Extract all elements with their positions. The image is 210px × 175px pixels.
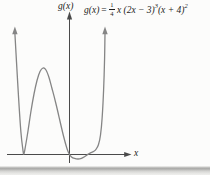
y-axis-label: g(x) [58, 1, 73, 11]
curve-right-arrowhead [102, 27, 107, 35]
curve-left-arrowhead [12, 27, 17, 35]
fraction-denominator: 4 [109, 9, 115, 18]
equation-term-a: x (2x − 3) [117, 5, 155, 15]
y-axis-arrowhead [67, 12, 72, 20]
graph-canvas [0, 0, 210, 175]
equation-fraction: 1 4 [109, 2, 115, 18]
x-axis-label: x [134, 148, 138, 158]
function-graph-figure: g(x) g(x) = 1 4 x (2x − 3) 3 (x + 4) 2 x [0, 0, 210, 175]
curve-path [15, 34, 105, 160]
equals-sign: = [101, 5, 106, 15]
page-edge-divider [0, 166, 210, 175]
equation-lhs: g(x) [84, 5, 99, 15]
equation-exponent-a: 3 [155, 3, 158, 10]
x-axis-arrowhead [124, 152, 131, 157]
equation-exponent-b: 2 [184, 3, 187, 10]
fraction-numerator: 1 [109, 2, 115, 10]
function-equation: g(x) = 1 4 x (2x − 3) 3 (x + 4) 2 [84, 0, 188, 19]
equation-term-b: (x + 4) [158, 5, 184, 15]
